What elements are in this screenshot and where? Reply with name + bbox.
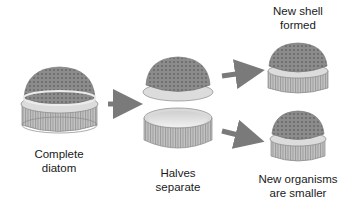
smaller-organism-illustration	[270, 111, 326, 161]
new-shell-illustration	[268, 43, 328, 93]
arrow-to-smaller	[222, 131, 250, 138]
arrow-to-new-shell	[222, 72, 250, 76]
top-half-illustration	[143, 57, 213, 101]
label-line: Complete	[24, 147, 94, 161]
label-complete-diatom: Complete diatom	[24, 147, 94, 175]
bottom-half-illustration	[144, 108, 212, 148]
label-new-shell-formed: New shell formed	[263, 4, 333, 32]
label-line: New shell	[263, 4, 333, 18]
label-line: separate	[143, 180, 213, 194]
label-new-organisms-smaller: New organisms are smaller	[250, 172, 346, 200]
label-line: Halves	[143, 166, 213, 180]
label-halves-separate: Halves separate	[143, 166, 213, 194]
label-line: diatom	[24, 161, 94, 175]
label-line: New organisms	[250, 172, 346, 186]
label-line: formed	[263, 18, 333, 32]
label-line: are smaller	[250, 186, 346, 200]
complete-diatom-illustration	[21, 67, 98, 133]
